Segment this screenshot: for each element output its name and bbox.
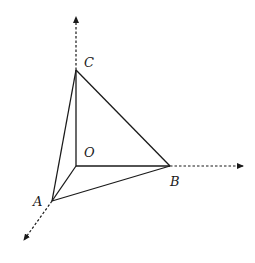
tetrahedron-diagram: C O B A — [0, 0, 255, 263]
label-C: C — [84, 55, 94, 70]
label-A: A — [32, 194, 42, 209]
edge-AB — [52, 166, 170, 201]
label-B: B — [169, 174, 180, 189]
edge-CA — [52, 70, 76, 201]
label-O: O — [84, 145, 95, 160]
